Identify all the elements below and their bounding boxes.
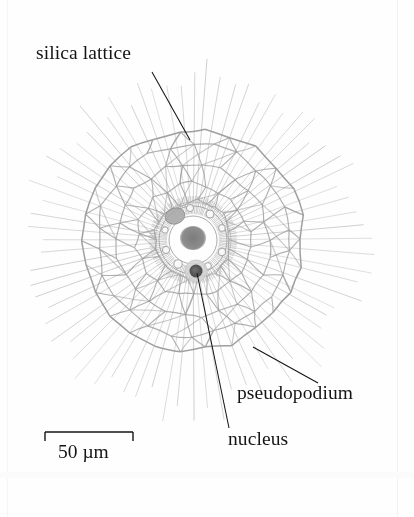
page-edge-right xyxy=(397,0,398,517)
radiolarian-illustration xyxy=(0,0,414,517)
label-nucleus: nucleus xyxy=(228,428,288,450)
radiolarian-figure: silica lattice pseudopodium nucleus 50 µ… xyxy=(0,0,414,517)
label-pseudopodium: pseudopodium xyxy=(237,382,353,404)
scale-bar-label: 50 µm xyxy=(58,441,109,463)
page-edge-left xyxy=(7,0,8,517)
page-edge-bottom xyxy=(0,472,414,478)
label-silica-lattice: silica lattice xyxy=(36,42,131,64)
